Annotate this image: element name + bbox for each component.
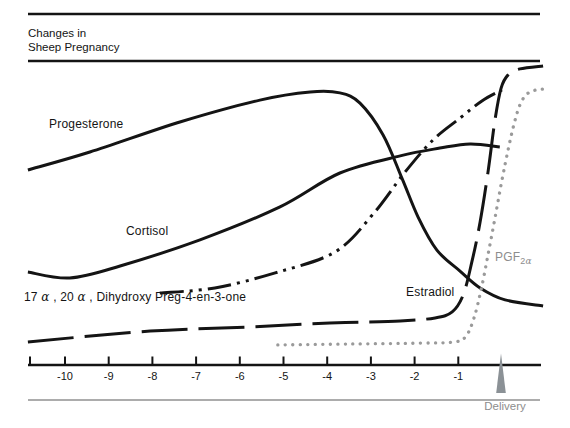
axis-tick-label: -2 bbox=[401, 370, 429, 382]
dihydroxy-label: 17 α , 20 α , Dihydroxy Preg-4-en-3-one bbox=[24, 290, 246, 304]
dihydroxy-label-part1: 17 bbox=[24, 290, 41, 304]
chart-page: Changes in Sheep Pregnancy Progesterone … bbox=[0, 0, 570, 428]
chart-title: Changes in Sheep Pregnancy bbox=[28, 26, 119, 54]
axis-tick-label: -4 bbox=[313, 370, 341, 382]
axis-tick-label: -9 bbox=[95, 370, 123, 382]
axis-tick-label: -3 bbox=[357, 370, 385, 382]
alpha-symbol: α bbox=[78, 290, 86, 304]
pgf-label-base: PGF bbox=[495, 250, 520, 264]
sheep-pregnancy-chart bbox=[0, 0, 570, 428]
axis-ticks bbox=[65, 357, 458, 365]
axis-tick-label: -5 bbox=[270, 370, 298, 382]
cortisol-label: Cortisol bbox=[126, 224, 168, 238]
delivery-label: Delivery bbox=[477, 400, 533, 412]
estradiol-label: Estradiol bbox=[406, 285, 455, 299]
chart-title-line2: Sheep Pregnancy bbox=[28, 40, 119, 54]
chart-title-line1: Changes in bbox=[28, 26, 119, 40]
delivery-marker-arrow bbox=[496, 354, 506, 394]
pgf2a-label: PGF2α bbox=[495, 250, 532, 266]
axis-tick-label: -10 bbox=[51, 370, 79, 382]
dihydroxy-label-part2: , 20 bbox=[50, 290, 78, 304]
axis-tick-label: -6 bbox=[226, 370, 254, 382]
axis-tick-label: -7 bbox=[182, 370, 210, 382]
series-cortisol-line bbox=[28, 144, 500, 278]
series-pgf2a-line bbox=[278, 89, 545, 345]
alpha-symbol: α bbox=[41, 290, 49, 304]
axis-tick-label: -8 bbox=[138, 370, 166, 382]
axis-tick-label: -1 bbox=[444, 370, 472, 382]
progesterone-label: Progesterone bbox=[49, 117, 123, 131]
dihydroxy-label-part3: , Dihydroxy Preg-4-en-3-one bbox=[86, 290, 246, 304]
pgf-label-sub-alpha: α bbox=[526, 256, 532, 266]
